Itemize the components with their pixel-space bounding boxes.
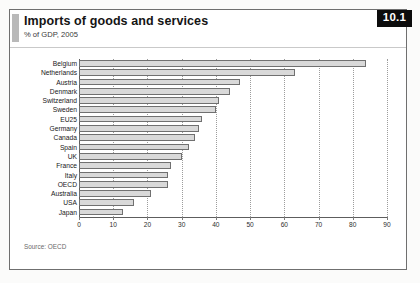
- x-tick-20: [147, 217, 148, 220]
- x-tick-90: [387, 217, 388, 220]
- bar-spain: [79, 144, 189, 151]
- category-label-spain: Spain: [60, 143, 77, 152]
- x-tick-70: [319, 217, 320, 220]
- bar-row: Australia: [79, 189, 387, 198]
- bar-denmark: [79, 88, 230, 95]
- category-label-italy: Italy: [65, 171, 77, 180]
- category-label-netherlands: Netherlands: [41, 68, 77, 77]
- bar-row: UK: [79, 152, 387, 161]
- category-label-sweden: Sweden: [53, 105, 77, 114]
- bar-row: Italy: [79, 171, 387, 180]
- x-tick-label-30: 30: [178, 221, 185, 228]
- gridline-90: [387, 59, 389, 217]
- category-label-uk: UK: [68, 152, 77, 161]
- page-title: Imports of goods and services: [24, 14, 208, 28]
- bar-usa: [79, 199, 134, 206]
- bar-switzerland: [79, 97, 219, 104]
- bar-germany: [79, 125, 199, 132]
- bar-canada: [79, 134, 195, 141]
- section-number-badge: 10.1: [377, 10, 412, 27]
- category-label-canada: Canada: [54, 133, 77, 142]
- bar-row: Canada: [79, 133, 387, 142]
- source-note: Source: OECD: [24, 243, 66, 250]
- bar-sweden: [79, 106, 216, 113]
- bar-row: Japan: [79, 208, 387, 217]
- bar-netherlands: [79, 69, 295, 76]
- x-tick-label-50: 50: [246, 221, 253, 228]
- category-label-denmark: Denmark: [50, 87, 77, 96]
- bar-australia: [79, 190, 151, 197]
- x-tick-label-10: 10: [110, 221, 117, 228]
- bar-belgium: [79, 60, 366, 67]
- category-label-australia: Australia: [51, 189, 77, 198]
- page-subtitle: % of GDP, 2005: [24, 30, 78, 39]
- category-label-austria: Austria: [56, 78, 77, 87]
- category-label-japan: Japan: [59, 208, 77, 217]
- bar-row: EU25: [79, 115, 387, 124]
- category-label-oecd: OECD: [58, 180, 77, 189]
- bar-row: Austria: [79, 78, 387, 87]
- bar-italy: [79, 172, 168, 179]
- header-divider: [10, 47, 406, 48]
- category-label-usa: USA: [63, 198, 77, 207]
- category-label-switzerland: Switzerland: [42, 96, 77, 105]
- category-label-germany: Germany: [49, 124, 77, 133]
- bar-uk: [79, 153, 182, 160]
- bar-row: USA: [79, 198, 387, 207]
- category-label-belgium: Belgium: [53, 59, 77, 68]
- category-label-eu25: EU25: [60, 115, 77, 124]
- chart-page: Imports of goods and services % of GDP, …: [0, 0, 420, 283]
- x-tick-40: [216, 217, 217, 220]
- x-tick-label-20: 20: [144, 221, 151, 228]
- bar-row: France: [79, 161, 387, 170]
- x-tick-60: [284, 217, 285, 220]
- x-tick-0: [79, 217, 80, 220]
- x-tick-10: [113, 217, 114, 220]
- x-tick-30: [182, 217, 183, 220]
- x-tick-label-80: 80: [349, 221, 356, 228]
- title-accent-bar: [12, 14, 19, 42]
- bar-row: Belgium: [79, 59, 387, 68]
- bar-row: Spain: [79, 143, 387, 152]
- bar-austria: [79, 79, 240, 86]
- bar-row: Switzerland: [79, 96, 387, 105]
- category-label-france: France: [56, 161, 77, 170]
- bar-row: Germany: [79, 124, 387, 133]
- bar-japan: [79, 209, 123, 216]
- bar-row: Netherlands: [79, 68, 387, 77]
- plot-area: 0102030405060708090BelgiumNetherlandsAus…: [79, 59, 387, 217]
- x-tick-label-90: 90: [383, 221, 390, 228]
- x-tick-label-40: 40: [212, 221, 219, 228]
- bar-france: [79, 162, 171, 169]
- bar-oecd: [79, 181, 168, 188]
- x-tick-50: [250, 217, 251, 220]
- x-tick-label-0: 0: [77, 221, 81, 228]
- bar-row: Denmark: [79, 87, 387, 96]
- x-tick-label-70: 70: [315, 221, 322, 228]
- x-axis-line: [79, 217, 387, 218]
- bar-eu25: [79, 116, 202, 123]
- bar-row: OECD: [79, 180, 387, 189]
- x-tick-label-60: 60: [281, 221, 288, 228]
- bar-row: Sweden: [79, 105, 387, 114]
- x-tick-80: [353, 217, 354, 220]
